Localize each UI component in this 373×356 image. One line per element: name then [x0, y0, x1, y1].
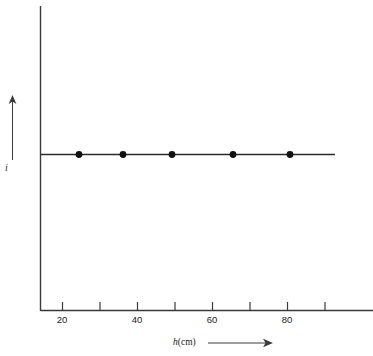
- data-point: [169, 151, 176, 158]
- data-point: [287, 151, 294, 158]
- y-axis-label: i: [5, 163, 8, 173]
- data-point: [120, 151, 127, 158]
- x-tick-label-60: 60: [197, 315, 227, 325]
- plot-area: [0, 0, 373, 356]
- x-axis-arrow-icon: [208, 339, 273, 348]
- y-axis-arrow-icon: [9, 95, 17, 160]
- x-axis-label: h(cm): [173, 338, 196, 348]
- data-point: [76, 151, 83, 158]
- data-point: [230, 151, 237, 158]
- x-axis-label-unit: (cm): [178, 337, 196, 347]
- x-tick-label-80: 80: [272, 315, 302, 325]
- chart-figure: 20 40 60 80 i h(cm): [0, 0, 373, 356]
- x-tick-label-20: 20: [47, 315, 77, 325]
- x-tick-label-40: 40: [122, 315, 152, 325]
